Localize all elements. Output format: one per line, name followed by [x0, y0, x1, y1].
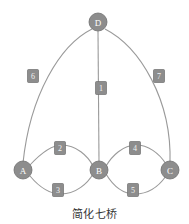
node-a-label: A: [20, 166, 27, 176]
edge-label-4-text: 4: [133, 144, 137, 153]
node-c: C: [161, 161, 179, 179]
figure-caption: 简化七桥: [0, 205, 189, 221]
edge-label-6: 6: [28, 70, 39, 83]
node-a: A: [14, 161, 32, 179]
edge-label-2: 2: [55, 142, 66, 155]
node-b: B: [90, 161, 108, 179]
edge-label-4: 4: [130, 142, 141, 155]
node-c-label: C: [167, 166, 173, 176]
edge-label-5: 5: [128, 184, 139, 197]
edge-label-7-text: 7: [157, 72, 161, 81]
edge-1-path: [98, 31, 99, 162]
edge-label-7: 7: [154, 70, 165, 83]
edge-label-5-text: 5: [131, 186, 135, 195]
node-b-label: B: [96, 166, 102, 176]
edge-label-1-text: 1: [99, 84, 103, 93]
edge-label-6-text: 6: [31, 72, 35, 81]
node-d-label: D: [95, 18, 102, 28]
edge-label-3-text: 3: [56, 186, 60, 195]
seven-bridges-figure: 6 7 1 2 3 4 5 D: [0, 0, 189, 224]
edge-label-3: 3: [53, 184, 64, 197]
graph-canvas: 6 7 1 2 3 4 5 D: [0, 0, 189, 224]
edge-label-1: 1: [96, 82, 107, 95]
edge-label-2-text: 2: [58, 144, 62, 153]
node-d: D: [89, 13, 107, 31]
